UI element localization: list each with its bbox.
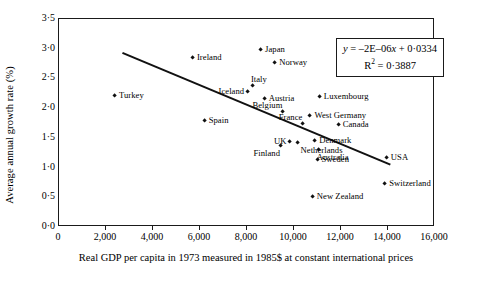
y-tick-label: 1·0: [21, 161, 55, 172]
y-tick-label: 2·0: [21, 101, 55, 112]
data-point-marker: [295, 140, 300, 145]
data-point-label: Finland: [253, 149, 280, 158]
y-tick-label: 0·5: [21, 190, 55, 201]
plot-area: TurkeyIrelandSpainIcelandItalyJapanAustr…: [58, 18, 434, 226]
x-tick-mark: [199, 226, 200, 230]
x-tick-label: 16,000: [404, 231, 464, 242]
data-point-label: Belgium: [252, 101, 282, 110]
data-point-label: Turkey: [119, 91, 144, 100]
data-point-label: UK: [274, 137, 287, 146]
data-point-label: Ireland: [197, 53, 222, 62]
y-tick-label: 3·0: [21, 42, 55, 53]
x-tick-mark: [340, 226, 341, 230]
x-tick-mark: [105, 226, 106, 230]
data-point-label: Iceland: [219, 87, 245, 96]
data-point-label: Australia: [317, 153, 349, 162]
data-point-label: France: [279, 113, 303, 122]
data-point-label: Canada: [343, 120, 369, 129]
x-axis-title: Real GDP per capita in 1973 measured in …: [40, 252, 452, 263]
r-squared-line: R2 = 0·3887: [343, 55, 437, 72]
data-point-label: Luxembourg: [324, 92, 369, 101]
data-point-label: Norway: [279, 58, 307, 67]
y-tick-label: 2·5: [21, 71, 55, 82]
r-squared-value: = 0·3887: [375, 60, 416, 71]
equation-tail: + 0·0334: [396, 43, 437, 54]
data-point-label: Japan: [265, 45, 285, 54]
y-tick-label: 0·0: [21, 220, 55, 231]
x-tick-mark: [387, 226, 388, 230]
data-point-label: Switzerland: [389, 179, 431, 188]
scatter-chart-figure: Average annual growth rate (%) 0·00·51·0…: [0, 0, 492, 281]
regression-equation-box: y = –2E–06x + 0·0334 R2 = 0·3887: [336, 38, 444, 77]
data-point-label: New Zealand: [317, 192, 364, 201]
equation-line: y = –2E–06x + 0·0334: [343, 42, 437, 55]
data-point-label: Denmark: [319, 136, 351, 145]
y-tick-label: 3·5: [21, 12, 55, 23]
y-tick-label: 1·5: [21, 131, 55, 142]
x-tick-mark: [152, 226, 153, 230]
x-tick-mark: [246, 226, 247, 230]
x-tick-mark: [293, 226, 294, 230]
equation-body: = –2E–06: [348, 43, 392, 54]
data-point-label: USA: [391, 153, 408, 162]
data-point-label: Spain: [209, 116, 229, 125]
data-point-label: Italy: [251, 75, 267, 84]
